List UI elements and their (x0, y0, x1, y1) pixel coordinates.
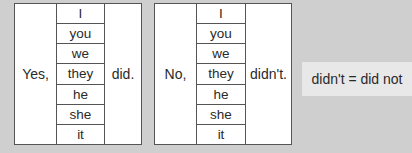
answer-lead: No, (155, 4, 196, 144)
pronoun-cell: they (57, 64, 104, 84)
pronoun-column: I you we they he she it (196, 4, 246, 144)
pronoun-cell: he (197, 85, 245, 105)
pronoun-cell: I (57, 4, 104, 24)
pronoun-cell: she (57, 105, 104, 125)
pronoun-cell: we (197, 44, 245, 64)
pronoun-cell: they (197, 64, 245, 84)
affirmative-answer-table: Yes, I you we they he she it did. (14, 3, 142, 145)
pronoun-cell: you (57, 24, 104, 44)
pronoun-cell: you (197, 24, 245, 44)
answer-lead: Yes, (15, 4, 56, 144)
pronoun-cell: it (197, 125, 245, 144)
pronoun-column: I you we they he she it (56, 4, 105, 144)
pronoun-cell: I (197, 4, 245, 24)
answer-verb: didn't. (246, 4, 291, 144)
pronoun-cell: we (57, 44, 104, 64)
pronoun-cell: she (197, 105, 245, 125)
contraction-note: didn't = did not (302, 62, 412, 96)
negative-answer-table: No, I you we they he she it didn't. (154, 3, 292, 145)
answer-verb: did. (105, 4, 141, 144)
pronoun-cell: it (57, 125, 104, 144)
pronoun-cell: he (57, 85, 104, 105)
